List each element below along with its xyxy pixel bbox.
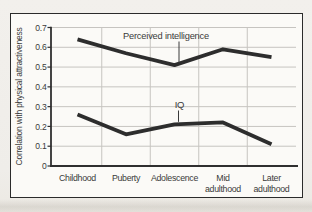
y-tick-label: 0.2: [35, 122, 47, 132]
y-tick-label: 0.5: [35, 62, 47, 72]
y-tick-label: 0.4: [35, 82, 47, 92]
annotation-perceived-intelligence: Perceived intelligence: [123, 30, 209, 41]
x-category-label: adulthood: [205, 184, 241, 194]
x-category-label: Later: [262, 173, 281, 183]
annotation-iq: IQ: [175, 99, 185, 110]
page-bottom-shadow: [0, 199, 312, 212]
scanned-page: 00.10.20.30.40.50.60.7ChildhoodPubertyAd…: [0, 0, 312, 212]
y-tick-label: 0.7: [35, 23, 47, 33]
y-tick-label: 0.6: [35, 42, 47, 52]
x-category-label: adulthood: [254, 184, 290, 194]
correlation-line-chart: 00.10.20.30.40.50.60.7ChildhoodPubertyAd…: [11, 14, 301, 196]
x-category-label: Mid: [216, 173, 230, 183]
y-axis-title: Correlation with physical attractiveness: [14, 27, 24, 166]
y-tick-label: 0: [42, 161, 47, 171]
series-line-iq: [78, 115, 272, 145]
x-category-label: Puberty: [112, 173, 141, 183]
figure-frame: 00.10.20.30.40.50.60.7ChildhoodPubertyAd…: [10, 13, 303, 198]
y-tick-label: 0.1: [35, 141, 47, 151]
x-category-label: Adolescence: [151, 173, 198, 183]
y-tick-label: 0.3: [35, 102, 47, 112]
series-line-perceived-intelligence: [78, 39, 272, 65]
x-category-label: Childhood: [59, 173, 96, 183]
